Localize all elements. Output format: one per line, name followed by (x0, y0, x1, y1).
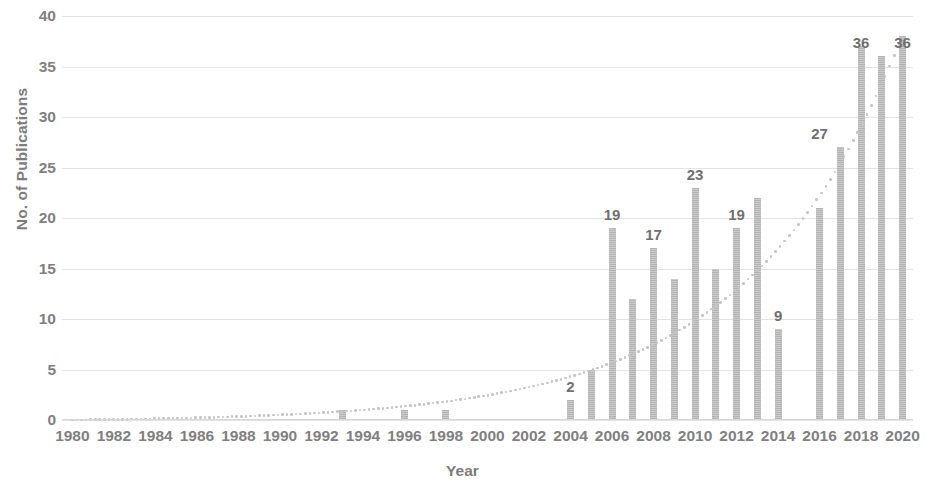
trend-dot (537, 384, 540, 387)
bar-value-label: 17 (634, 227, 674, 242)
gridline (62, 67, 913, 68)
bar-value-label: 36 (883, 35, 923, 50)
trend-dot (487, 394, 490, 397)
trend-dot (304, 412, 307, 415)
trend-dot (852, 139, 855, 142)
x-tick-label: 2020 (873, 428, 925, 444)
trend-dot (455, 399, 458, 402)
trend-dot (368, 408, 371, 411)
trend-dot (806, 211, 809, 214)
trend-dot (646, 346, 649, 349)
trend-dot (688, 323, 691, 326)
y-tick-label: 40 (22, 8, 56, 24)
trend-dot (628, 354, 631, 357)
trend-dot (893, 54, 896, 57)
y-tick-label: 35 (22, 59, 56, 75)
trend-dot (797, 223, 800, 226)
bar (816, 208, 823, 420)
trend-dot (340, 410, 343, 413)
trend-dot (701, 314, 704, 317)
trend-dot (884, 75, 887, 78)
trend-dot (226, 416, 229, 419)
trend-dot (783, 240, 786, 243)
trend-dot (277, 414, 280, 417)
trend-dot (656, 341, 659, 344)
trend-dot (601, 365, 604, 368)
trend-dot (861, 122, 864, 125)
gridline (62, 16, 913, 17)
trend-dot (249, 415, 252, 418)
y-tick-label: 15 (22, 261, 56, 277)
trend-dot (409, 404, 412, 407)
trend-dot (331, 411, 334, 414)
trend-dot (829, 178, 832, 181)
trend-dot (820, 192, 823, 195)
bar-value-label: 19 (592, 207, 632, 222)
trend-dot (295, 413, 298, 416)
trend-dot (519, 388, 522, 391)
bar (733, 228, 740, 420)
trend-dot (578, 373, 581, 376)
bar-value-label: 2 (551, 379, 591, 394)
bar (650, 248, 657, 420)
trend-dot (843, 155, 846, 158)
trend-dot (514, 389, 517, 392)
trend-dot (473, 396, 476, 399)
plot-area (62, 16, 913, 420)
trend-dot (267, 414, 270, 417)
bar (671, 279, 678, 420)
trend-dot (450, 400, 453, 403)
trend-dot (372, 408, 375, 411)
trend-dot (436, 401, 439, 404)
trend-dot (464, 398, 467, 401)
trend-dot (669, 334, 672, 337)
trend-dot (624, 356, 627, 359)
trend-dot (546, 382, 549, 385)
trend-dot (395, 406, 398, 409)
trend-dot (235, 415, 238, 418)
bar (692, 188, 699, 420)
gridline (62, 370, 913, 371)
trend-dot (286, 413, 289, 416)
trend-dot (414, 404, 417, 407)
trend-dot (441, 401, 444, 404)
trend-dot (500, 391, 503, 394)
bar (878, 56, 885, 420)
trend-dot (592, 368, 595, 371)
trend-dot (482, 395, 485, 398)
trend-dot (678, 329, 681, 332)
trend-dot (875, 95, 878, 98)
trend-dot (400, 405, 403, 408)
gridline (62, 117, 913, 118)
trend-dot (870, 104, 873, 107)
trend-dot (318, 412, 321, 415)
trend-dot (665, 337, 668, 340)
trend-dot (404, 405, 407, 408)
trend-dot (879, 85, 882, 88)
trend-dot (815, 198, 818, 201)
trend-dot (386, 407, 389, 410)
trend-dot (788, 234, 791, 237)
trend-dot (532, 385, 535, 388)
trend-dot (290, 413, 293, 416)
y-tick-label: 20 (22, 210, 56, 226)
trend-dot (596, 367, 599, 370)
trend-dot (491, 393, 494, 396)
trend-dot (637, 350, 640, 353)
trend-dot (747, 278, 750, 281)
trend-dot (427, 402, 430, 405)
trend-dot (258, 414, 261, 417)
trend-dot (706, 311, 709, 314)
trend-dot (683, 326, 686, 329)
trend-dot (541, 383, 544, 386)
y-tick-label: 0 (22, 412, 56, 428)
trend-dot (423, 403, 426, 406)
trend-dot (222, 416, 225, 419)
trend-dot (309, 412, 312, 415)
trend-dot (742, 282, 745, 285)
trend-dot (573, 374, 576, 377)
bar-value-label: 27 (800, 126, 840, 141)
trend-dot (281, 413, 284, 416)
trend-dot (838, 163, 841, 166)
trend-dot (825, 185, 828, 188)
